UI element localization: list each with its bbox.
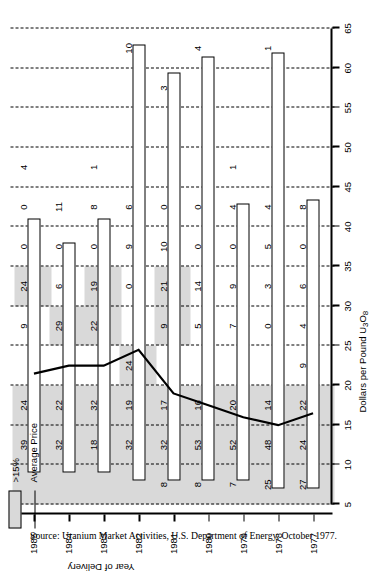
source-note: Source: Uranium Market Activities, U.S. … [30, 530, 337, 541]
average-price-line [33, 349, 312, 424]
